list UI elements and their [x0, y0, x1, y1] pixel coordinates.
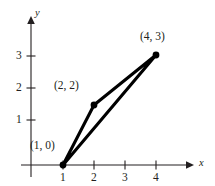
x-tick-label-3: 3 [122, 172, 128, 184]
point-label-4-3: (4, 3) [140, 31, 165, 43]
y-tick-label-2: 2 [16, 82, 22, 94]
x-tick-label-4: 4 [153, 172, 159, 184]
y-tick-label-3: 3 [16, 50, 22, 62]
point-label-1-0: (1, 0) [30, 140, 55, 152]
x-tick-label-2: 2 [91, 172, 97, 184]
y-axis-arrowhead [27, 16, 35, 24]
point-label-2-2: (2, 2) [54, 80, 79, 92]
vertex-dot-2-2 [91, 102, 98, 109]
y-axis-label: y [35, 8, 40, 19]
figure-coordinate-plane: y x 1 2 3 4 1 2 3 (1, 0) (2, 2) (4, 3) [0, 0, 215, 186]
vertex-dot-4-3 [153, 52, 160, 59]
triangle-polygon [63, 55, 156, 165]
x-axis-arrowhead [186, 161, 194, 169]
vertex-dot-1-0 [60, 162, 67, 169]
plot-canvas [0, 0, 215, 186]
x-axis-label: x [199, 158, 204, 169]
x-tick-label-1: 1 [60, 172, 66, 184]
y-tick-label-1: 1 [16, 114, 22, 126]
